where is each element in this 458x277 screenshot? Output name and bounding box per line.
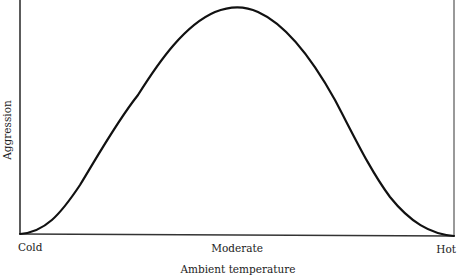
y-axis-title: Aggression (1, 100, 13, 161)
x-tick-cold: Cold (18, 241, 43, 253)
x-axis-title: Ambient temperature (180, 263, 296, 275)
x-tick-hot: Hot (436, 243, 456, 255)
x-axis-line (20, 234, 454, 236)
aggression-curve (20, 8, 454, 237)
inverted-u-chart: Aggression Cold Moderate Hot Ambient tem… (0, 0, 458, 277)
x-tick-moderate: Moderate (211, 242, 263, 254)
